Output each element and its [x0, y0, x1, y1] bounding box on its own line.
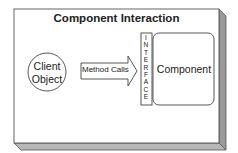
- method-calls-label: Method Calls: [82, 65, 138, 74]
- interface-letter: E: [141, 56, 151, 63]
- diagram-title: Component Interaction: [14, 12, 219, 24]
- interface-letter: N: [141, 41, 151, 48]
- interface-letter: C: [141, 86, 151, 93]
- interface-letter: T: [141, 49, 151, 56]
- interface-letter: F: [141, 71, 151, 78]
- box-bottom-face: [14, 143, 226, 150]
- component-label: Component: [154, 63, 214, 75]
- interface-letter: I: [141, 34, 151, 41]
- interface-letter: A: [141, 78, 151, 85]
- interface-letter: R: [141, 64, 151, 71]
- client-label-line1: Client: [27, 60, 67, 73]
- interface-letter: E: [141, 93, 151, 100]
- client-object-label: Client Object: [27, 60, 67, 86]
- interface-label: I N T E R F A C E: [141, 34, 151, 101]
- box-right-face: [219, 9, 226, 150]
- client-label-line2: Object: [27, 73, 67, 86]
